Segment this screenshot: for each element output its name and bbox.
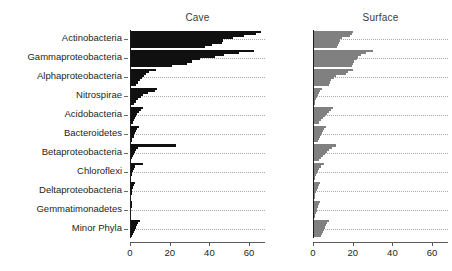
cave-panel-xtick-3 xyxy=(249,243,250,246)
cave-panel-y-axis xyxy=(130,30,131,238)
surface-panel-xtick-1 xyxy=(353,243,354,246)
bar-1-7 xyxy=(130,65,172,67)
bar-group-10 xyxy=(313,219,448,238)
category-label-bacteroidetes: Bacteroidetes xyxy=(64,128,122,138)
surface-panel-xtick-label-0: 0 xyxy=(301,247,325,258)
category-label-deltaproteobacteria: Deltaproteobacteria xyxy=(39,185,122,195)
bar-group-1 xyxy=(130,49,265,68)
category-label-nitrospirae: Nitrospirae xyxy=(76,90,122,100)
category-label-actinobacteria: Actinobacteria xyxy=(62,33,122,43)
category-tick-6 xyxy=(124,153,128,154)
category-label-chloroflexi: Chloroflexi xyxy=(77,166,122,176)
category-tick-4 xyxy=(124,115,128,116)
surface-panel-x-axis xyxy=(313,242,448,243)
category-label-gammaproteobacteria: Gammaproteobacteria xyxy=(27,52,122,62)
bar-group-8 xyxy=(130,181,265,200)
category-tick-9 xyxy=(124,210,128,211)
surface-panel-y-axis xyxy=(313,30,314,238)
cave-panel-xtick-2 xyxy=(209,243,210,246)
category-tick-2 xyxy=(124,77,128,78)
panel-title-surface-panel: Surface xyxy=(313,12,448,23)
category-label-gemmatimonadetes: Gemmatimonadetes xyxy=(36,204,122,214)
cave-panel-xtick-1 xyxy=(170,243,171,246)
bar-group-7 xyxy=(130,162,265,181)
bar-group-6 xyxy=(130,143,265,162)
category-tick-10 xyxy=(124,229,128,230)
category-label-minor-phyla: Minor Phyla xyxy=(72,223,122,233)
cave-panel-xtick-label-0: 0 xyxy=(118,247,142,258)
surface-panel-xtick-label-3: 60 xyxy=(420,247,444,258)
bar-group-0 xyxy=(130,30,265,49)
category-label-acidobacteria: Acidobacteria xyxy=(64,109,122,119)
category-tick-1 xyxy=(124,58,128,59)
category-tick-5 xyxy=(124,134,128,135)
bar-1-7 xyxy=(313,65,352,67)
bar-group-5 xyxy=(313,125,448,144)
bar-group-6 xyxy=(313,143,448,162)
bar-2-7 xyxy=(313,84,329,86)
bar-group-1 xyxy=(313,49,448,68)
bar-group-0 xyxy=(313,30,448,49)
surface-panel-xtick-label-2: 40 xyxy=(380,247,404,258)
category-tick-0 xyxy=(124,39,128,40)
bar-group-9 xyxy=(130,200,265,219)
surface-panel-xtick-2 xyxy=(392,243,393,246)
bar-10-7 xyxy=(313,235,321,237)
surface-panel-xtick-0 xyxy=(313,243,314,246)
category-tick-3 xyxy=(124,96,128,97)
bar-group-4 xyxy=(313,106,448,125)
surface-panel-xtick-label-1: 20 xyxy=(341,247,365,258)
surface-panel-plot xyxy=(313,30,448,238)
panel-title-cave-panel: Cave xyxy=(130,12,265,23)
bar-group-10 xyxy=(130,219,265,238)
cave-panel-xtick-0 xyxy=(130,243,131,246)
bar-group-8 xyxy=(313,181,448,200)
bar-0-7 xyxy=(313,46,337,48)
cave-panel-x-axis xyxy=(130,242,265,243)
bar-group-2 xyxy=(130,68,265,87)
category-tick-8 xyxy=(124,191,128,192)
cave-panel-xtick-label-3: 60 xyxy=(237,247,261,258)
bar-group-3 xyxy=(313,87,448,106)
cave-panel-xtick-label-2: 40 xyxy=(197,247,221,258)
category-label-betaproteobacteria: Betaproteobacteria xyxy=(42,147,122,157)
bar-group-7 xyxy=(313,162,448,181)
bar-group-2 xyxy=(313,68,448,87)
bar-0-7 xyxy=(130,46,205,48)
cave-panel-plot xyxy=(130,30,265,238)
cave-panel-xtick-label-1: 20 xyxy=(158,247,182,258)
bar-group-4 xyxy=(130,106,265,125)
category-label-alphaproteobacteria: Alphaproteobacteria xyxy=(37,71,122,81)
bar-group-5 xyxy=(130,125,265,144)
surface-panel-xtick-3 xyxy=(432,243,433,246)
bar-group-3 xyxy=(130,87,265,106)
grouped-bar-chart-figure: ActinobacteriaGammaproteobacteriaAlphapr… xyxy=(0,0,452,271)
bar-group-9 xyxy=(313,200,448,219)
category-tick-7 xyxy=(124,172,128,173)
